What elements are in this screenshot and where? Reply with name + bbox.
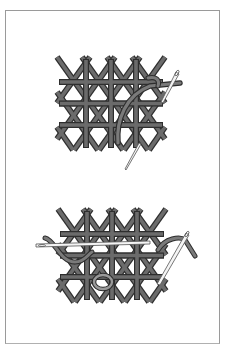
bottom-stitch-panel <box>36 209 195 302</box>
stitch-illustration <box>0 0 225 347</box>
bottom-lattice <box>58 209 166 302</box>
top-stitch-panel <box>57 57 180 170</box>
top-lattice <box>57 57 165 150</box>
